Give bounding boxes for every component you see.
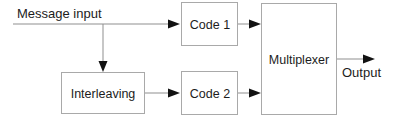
diagram-canvas: Code 1 Interleaving Code 2 Multiplexer M… <box>0 0 403 128</box>
connector-input-to-interleaving <box>99 24 108 72</box>
message-input-label: Message input <box>17 6 102 21</box>
block-code2[interactable]: Code 2 <box>182 72 238 115</box>
connector-interleaving-to-code2 <box>145 89 180 98</box>
block-code1[interactable]: Code 1 <box>182 3 238 46</box>
block-multiplexer-label: Multiplexer <box>269 53 329 67</box>
connector-code2-to-multiplexer <box>238 89 261 98</box>
block-code1-label: Code 1 <box>190 18 230 32</box>
connector-code1-to-multiplexer <box>238 20 261 29</box>
connector-multiplexer-to-output <box>337 55 375 64</box>
block-interleaving-label: Interleaving <box>71 87 136 101</box>
block-interleaving[interactable]: Interleaving <box>62 73 145 114</box>
output-label: Output <box>342 65 381 80</box>
block-multiplexer[interactable]: Multiplexer <box>262 4 337 115</box>
block-code2-label: Code 2 <box>190 87 230 101</box>
